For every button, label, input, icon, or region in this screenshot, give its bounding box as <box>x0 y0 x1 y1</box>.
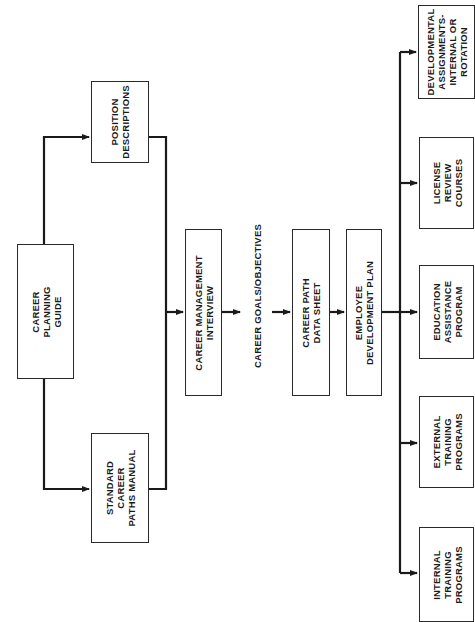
career-management-interview-box: CAREER MANAGEMENT INTERVIEW <box>185 229 222 396</box>
license-review-courses-label: LICENSE REVIEW COURSES <box>430 159 463 207</box>
employee-development-plan-label: EMPLOYEE DEVELOPMENT PLAN <box>353 260 375 364</box>
position-descriptions-label: POSITION DESCRIPTIONS <box>109 85 131 159</box>
employee-development-plan-box: EMPLOYEE DEVELOPMENT PLAN <box>346 229 382 396</box>
career-path-data-sheet-label: CAREER PATH DATA SHEET <box>300 278 322 347</box>
standard-career-paths-manual-box: STANDARD CAREER PATHS MANUAL <box>91 433 149 543</box>
career-path-data-sheet-box: CAREER PATH DATA SHEET <box>292 229 330 396</box>
education-assistance-program-label: EDUCATION ASSISTANCE PROGRAM <box>430 281 463 344</box>
developmental-assignments-box: DEVELOPMENTAL ASSIGNMENTS- INTERNAL OR R… <box>418 5 475 99</box>
internal-training-programs-label: INTERNAL TRAINING PROGRAMS <box>430 546 463 604</box>
career-goals-objectives-label: CAREER GOALS/OBJECTIVES <box>252 224 263 368</box>
external-training-programs-box: EXTERNAL TRAINING PROGRAMS <box>419 396 474 488</box>
career-planning-guide-label: CAREER PLANNING GUIDE <box>29 286 62 337</box>
education-assistance-program-box: EDUCATION ASSISTANCE PROGRAM <box>419 265 474 359</box>
developmental-assignments-label: DEVELOPMENTAL ASSIGNMENTS- INTERNAL OR R… <box>425 9 469 96</box>
external-training-programs-label: EXTERNAL TRAINING PROGRAMS <box>430 413 463 471</box>
license-review-courses-box: LICENSE REVIEW COURSES <box>419 137 474 229</box>
position-descriptions-box: POSITION DESCRIPTIONS <box>91 81 149 163</box>
standard-career-paths-manual-label: STANDARD CAREER PATHS MANUAL <box>104 450 137 527</box>
internal-training-programs-box: INTERNAL TRAINING PROGRAMS <box>419 527 474 622</box>
career-management-interview-label: CAREER MANAGEMENT INTERVIEW <box>193 255 215 370</box>
career-planning-guide-box: CAREER PLANNING GUIDE <box>17 244 74 379</box>
